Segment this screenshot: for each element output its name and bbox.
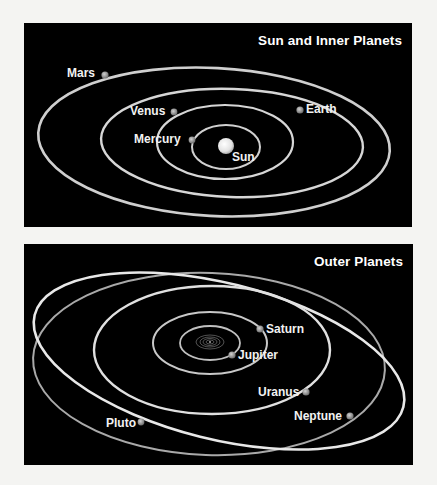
neptune-label: Neptune — [294, 409, 342, 423]
venus-icon — [171, 109, 178, 116]
neptune-icon — [346, 412, 353, 419]
mercury-label: Mercury — [134, 132, 181, 146]
outer-planets-panel: Outer Planets Saturn Jupiter Uranus Nept… — [24, 244, 413, 465]
sun-label: Sun — [232, 150, 255, 164]
mars-orbit — [34, 59, 393, 225]
mars-label: Mars — [67, 66, 95, 80]
venus-label: Venus — [130, 104, 165, 118]
outer-orbits-diagram — [24, 244, 413, 465]
earth-icon — [296, 106, 303, 113]
uranus-label: Uranus — [258, 385, 299, 399]
jupiter-icon — [228, 351, 235, 358]
pluto-icon — [138, 419, 145, 426]
inner-orbits-diagram — [24, 23, 412, 227]
pluto-orbit — [24, 244, 413, 465]
miniature-inner-system — [196, 335, 224, 349]
inner-planets-panel: Sun and Inner Planets Mars Venus Earth M… — [24, 23, 412, 227]
panel-title: Outer Planets — [314, 254, 403, 269]
pluto-label: Pluto — [106, 416, 136, 430]
jupiter-label: Jupiter — [238, 348, 278, 362]
panel-title: Sun and Inner Planets — [258, 33, 402, 48]
saturn-label: Saturn — [266, 322, 304, 336]
mars-icon — [101, 71, 108, 78]
earth-label: Earth — [306, 102, 337, 116]
saturn-orbit — [153, 312, 267, 374]
neptune-orbit — [30, 267, 388, 461]
uranus-icon — [302, 388, 309, 395]
saturn-icon — [256, 325, 263, 332]
mercury-icon — [189, 137, 196, 144]
